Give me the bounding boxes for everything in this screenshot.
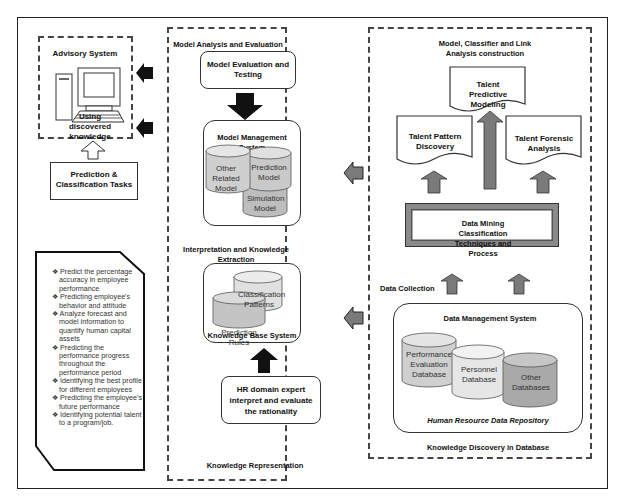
model-classifier-title: Model, Classifier and Link Analysis cons…: [430, 39, 540, 59]
cylinder-other-related-model: Other Related Model: [208, 164, 244, 194]
cylinder-prediction-model: Prediction Model: [251, 163, 287, 183]
gray-up-arrow-icon: [420, 170, 448, 194]
black-left-arrow-icon: [136, 117, 154, 139]
model-evaluation-label: Model Evaluation and Testing: [204, 60, 292, 80]
gray-up-arrow-icon: [529, 170, 557, 194]
cylinder-personnel-database: Personnel Database: [456, 365, 502, 385]
gray-left-arrow-icon: [343, 305, 365, 331]
gray-up-arrow-icon: [476, 110, 504, 190]
cylinder-classification-patterns: Classification Patterns: [238, 290, 280, 310]
data-collection-label: Data Collection: [380, 284, 436, 294]
knowledge-representation-label: Knowledge Representation: [200, 461, 310, 471]
advisory-system-subtitle: Using discovered knowledge: [60, 112, 120, 142]
gray-up-arrow-icon: [507, 273, 531, 295]
task-item: ❖ Predicting the performance progress th…: [52, 344, 144, 378]
talent-predictive-modeling-label: Talent Predictive Modeling: [458, 80, 518, 110]
black-up-arrow-icon: [249, 348, 279, 374]
interpretation-title: Interpretation and Knowledge Extraction: [170, 245, 302, 265]
task-item: ❖ Analyze forecast and model information…: [52, 310, 144, 344]
task-item: ❖ Predicting the employee's future perfo…: [52, 394, 144, 411]
talent-pattern-discovery-label: Talent Pattern Discovery: [404, 132, 466, 152]
black-left-arrow-icon: [136, 62, 154, 84]
gray-up-arrow-icon: [440, 273, 464, 295]
model-analysis-title: Model Analysis and Evaluation: [170, 40, 286, 50]
cylinder-performance-evaluation-database: Performance Evaluation Database: [404, 350, 454, 380]
cylinder-simulation-model: Simulation Model: [247, 194, 283, 214]
black-down-arrow-icon: [225, 93, 265, 121]
knowledge-discovery-label: Knowledge Discovery in Database: [420, 443, 556, 453]
knowledge-base-system-title: Knowledge Base System: [205, 331, 299, 341]
tasks-list: ❖ Predict the percentage accuracy in emp…: [52, 268, 144, 428]
prediction-classification-tasks-label: Prediction & Classification Tasks: [54, 170, 134, 190]
task-item: ❖ Identifying the best profile for diffe…: [52, 377, 144, 394]
gray-left-arrow-icon: [343, 160, 365, 186]
hr-data-repository-label: Human Resource Data Repository: [420, 416, 556, 426]
hollow-up-arrow-icon: [80, 140, 106, 160]
task-item: ❖ Predict the percentage accuracy in emp…: [52, 268, 144, 293]
cylinder-other-databases: Other Databases: [508, 373, 554, 393]
data-mining-label: Data Mining Classification Techniques an…: [440, 219, 526, 259]
hr-domain-expert-label: HR domain expert interpret and evaluate …: [224, 384, 318, 417]
advisory-system-title: Advisory System: [40, 49, 130, 59]
data-management-system-title: Data Management System: [440, 314, 540, 324]
talent-forensic-analysis-label: Talent Forensic Analysis: [512, 134, 576, 154]
task-item: ❖ Identifying potential talent to a prog…: [52, 411, 144, 428]
task-item: ❖ Predicting employee's behavior and att…: [52, 293, 144, 310]
